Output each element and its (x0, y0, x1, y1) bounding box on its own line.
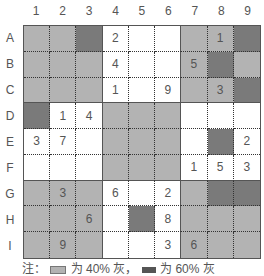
grid-cell (103, 155, 129, 181)
grid-cell (234, 103, 260, 129)
grid-cell (76, 181, 102, 207)
grid-cell (208, 232, 234, 258)
grid-cell: 4 (103, 52, 129, 78)
column-label: 9 (235, 4, 261, 18)
grid-cell: 5 (208, 155, 234, 181)
grid-cell (103, 206, 129, 232)
grid-cell (76, 232, 102, 258)
column-label: 3 (76, 4, 102, 18)
grid-cell (24, 103, 50, 129)
grid-cell (181, 206, 207, 232)
row-label: H (0, 213, 20, 227)
grid-cell (129, 181, 155, 207)
grid-cell (129, 129, 155, 155)
grid-cell (155, 129, 181, 155)
column-label: 1 (23, 4, 49, 18)
grid-cell: 6 (181, 232, 207, 258)
grid-cell (234, 181, 260, 207)
grid-cell (76, 78, 102, 104)
grid-cell: 3 (234, 155, 260, 181)
grid-cell (129, 232, 155, 258)
grid-cell (129, 52, 155, 78)
grid-cell (76, 26, 102, 52)
grid-cell (76, 155, 102, 181)
grid-cell (50, 206, 76, 232)
grid-cell (181, 181, 207, 207)
column-label: 6 (155, 4, 181, 18)
column-label: 8 (208, 4, 234, 18)
grid-cell (24, 155, 50, 181)
row-label: A (0, 31, 20, 45)
grid-cell (50, 78, 76, 104)
grid-cell: 4 (76, 103, 102, 129)
grid-cell (234, 206, 260, 232)
grid-cell (208, 52, 234, 78)
grid-cell (234, 26, 260, 52)
grid-cell: 2 (155, 181, 181, 207)
grid-cell (129, 26, 155, 52)
grid-cell (155, 155, 181, 181)
grid-cell (24, 52, 50, 78)
grid-cell: 6 (76, 206, 102, 232)
grid-cell: 1 (181, 155, 207, 181)
column-label: 7 (182, 4, 208, 18)
grid-cell (103, 103, 129, 129)
grid-cell: 8 (155, 206, 181, 232)
grid-cell: 1 (208, 26, 234, 52)
grid-cell (24, 206, 50, 232)
grid-cell: 7 (50, 129, 76, 155)
grid-cell (129, 206, 155, 232)
grid-cell (234, 232, 260, 258)
grid-cell (50, 26, 76, 52)
grid-cell (208, 103, 234, 129)
grid-cell: 1 (50, 103, 76, 129)
light-gray-swatch-icon (50, 266, 66, 274)
row-label: G (0, 187, 20, 201)
grid-cell: 2 (234, 129, 260, 155)
grid-cell (181, 103, 207, 129)
row-label: F (0, 161, 20, 175)
legend-prefix: 注： (22, 262, 46, 276)
grid-cell: 3 (50, 181, 76, 207)
grid-cell (50, 52, 76, 78)
grid-cell (129, 155, 155, 181)
row-label: E (0, 135, 20, 149)
grid-cell (234, 78, 260, 104)
grid-cell (208, 206, 234, 232)
grid-cell (103, 129, 129, 155)
grid-cell (129, 103, 155, 129)
grid-cell (24, 181, 50, 207)
grid-cell (76, 52, 102, 78)
grid-cell: 2 (103, 26, 129, 52)
column-label: 4 (102, 4, 128, 18)
grid-cell (234, 52, 260, 78)
grid-cell: 5 (181, 52, 207, 78)
grid-cell (208, 181, 234, 207)
grid-cell (24, 78, 50, 104)
legend: 注： 为 40% 灰， 为 60% 灰 (22, 259, 215, 276)
row-label: I (0, 239, 20, 253)
column-label: 5 (129, 4, 155, 18)
legend-light-text: 为 40% 灰， (71, 262, 138, 276)
puzzle-grid: 21451931437215336268936 (23, 25, 261, 259)
dark-gray-swatch-icon (142, 267, 156, 273)
grid-cell (155, 26, 181, 52)
grid-cell: 3 (24, 129, 50, 155)
grid-cell (76, 129, 102, 155)
row-label: B (0, 57, 20, 71)
grid-cell: 1 (103, 78, 129, 104)
grid-cell (155, 52, 181, 78)
grid-cell (181, 78, 207, 104)
grid-cell: 3 (208, 78, 234, 104)
grid-cell (50, 155, 76, 181)
grid-cell (208, 129, 234, 155)
grid-cell (181, 26, 207, 52)
grid-cell: 9 (50, 232, 76, 258)
grid-cell (103, 232, 129, 258)
grid-cell: 6 (103, 181, 129, 207)
grid-cell (24, 232, 50, 258)
grid-cell (181, 129, 207, 155)
grid-cell (24, 26, 50, 52)
grid-cell (155, 103, 181, 129)
grid-cell: 9 (155, 78, 181, 104)
